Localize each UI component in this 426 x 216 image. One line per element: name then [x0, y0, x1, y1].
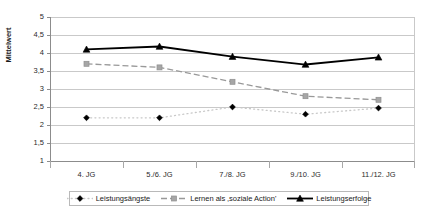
data-point-marker-diamond: [303, 111, 309, 117]
x-axis-tick-label: 7./8. JG: [196, 170, 269, 179]
series-2: [84, 61, 381, 102]
line-chart: Mittelwert 54,543,532,521,51 4. JG5./6. …: [0, 0, 426, 216]
data-point-marker-square: [376, 97, 381, 102]
chart-legend: LeistungsängsteLernen als ‚soziale Actio…: [69, 191, 369, 206]
data-point-marker-diamond: [84, 115, 90, 121]
data-point-marker-diamond: [77, 196, 83, 202]
legend-entry[interactable]: Lernen als ‚soziale Action': [161, 194, 276, 203]
data-point-marker-diamond: [157, 115, 163, 121]
x-axis-tick-label: 4. JG: [50, 170, 123, 179]
legend-sample-diamond-icon: [67, 194, 93, 203]
data-point-marker-square: [84, 61, 89, 66]
x-axis-tick-label: 11./12. JG: [342, 170, 415, 179]
data-point-marker-diamond: [376, 105, 382, 111]
legend-sample-square-icon: [161, 194, 187, 203]
data-point-marker-square: [157, 65, 162, 70]
x-axis-tick-label: 9./10. JG: [269, 170, 342, 179]
gridlines: [50, 18, 415, 162]
legend-entry[interactable]: Leistungsängste: [67, 194, 151, 203]
legend-sample-triangle-icon: [287, 194, 313, 203]
series-1: [84, 104, 382, 121]
x-axis-tick-label: 5./6. JG: [123, 170, 196, 179]
plot-area: [0, 0, 426, 216]
legend-label: Leistungsängste: [96, 194, 151, 203]
series-3: [83, 43, 382, 67]
data-point-marker-diamond: [230, 104, 236, 110]
legend-entry[interactable]: Leistungserfolge: [287, 194, 371, 203]
legend-label: Lernen als ‚soziale Action': [190, 194, 276, 203]
data-point-marker-square: [303, 94, 308, 99]
legend-label: Leistungserfolge: [316, 194, 371, 203]
data-point-marker-square: [172, 196, 177, 201]
axis-lines: [47, 17, 415, 168]
data-point-marker-square: [230, 79, 235, 84]
